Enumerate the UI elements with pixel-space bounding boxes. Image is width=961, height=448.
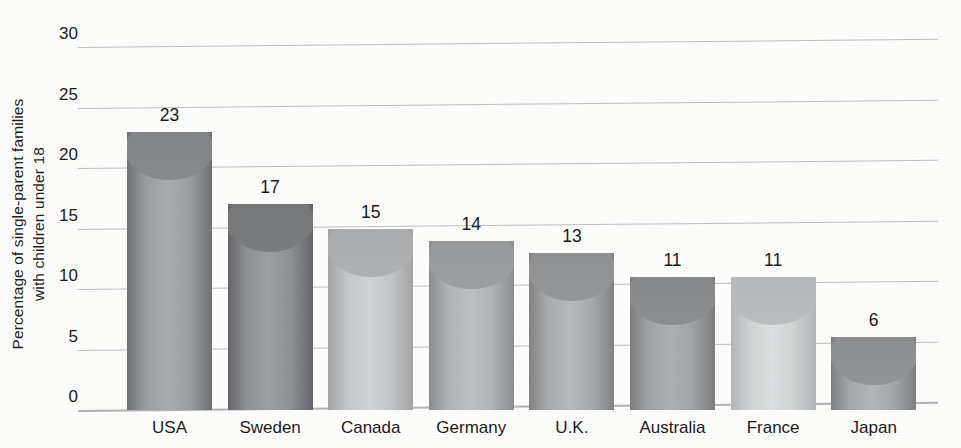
y-axis-tick-label: 0 [30, 387, 78, 407]
bar-value-label: 23 [127, 105, 212, 126]
y-axis-tick-label: 25 [30, 85, 78, 105]
bar-uk [529, 253, 614, 410]
x-axis-label-japan: Japan [822, 418, 925, 438]
x-axis-label-sweden: Sweden [219, 418, 322, 438]
plot-area: 05101520253023USA17Sweden15Canada14Germa… [0, 0, 961, 448]
bar-australia [630, 277, 715, 410]
bar-value-label: 11 [630, 250, 715, 271]
bar-germany [429, 241, 514, 410]
bar-value-label: 6 [831, 310, 916, 331]
bar-value-label: 13 [529, 226, 614, 247]
x-axis-label-usa: USA [118, 418, 221, 438]
bar-sweden [228, 204, 313, 410]
y-axis-tick-label: 30 [30, 24, 78, 44]
x-axis-label-germany: Germany [420, 418, 523, 438]
y-axis-tick-label: 20 [30, 145, 78, 165]
bar-value-label: 15 [328, 202, 413, 223]
bar-value-label: 17 [228, 177, 313, 198]
bar-chart: Percentage of single-parent families wit… [0, 0, 961, 448]
bar-canada [328, 229, 413, 411]
bar-france [731, 277, 816, 410]
bar-value-label: 14 [429, 214, 514, 235]
gridline [78, 39, 938, 48]
y-axis-tick-label: 10 [30, 266, 78, 286]
bar-value-label: 11 [731, 250, 816, 271]
y-axis-tick-label: 15 [30, 206, 78, 226]
y-axis-tick-label: 5 [30, 327, 78, 347]
x-axis-label-australia: Australia [621, 418, 724, 438]
bar-usa [127, 132, 212, 410]
x-axis-label-uk: U.K. [520, 418, 623, 438]
bar-japan [831, 337, 916, 410]
x-axis-label-canada: Canada [319, 418, 422, 438]
x-axis-label-france: France [722, 418, 825, 438]
